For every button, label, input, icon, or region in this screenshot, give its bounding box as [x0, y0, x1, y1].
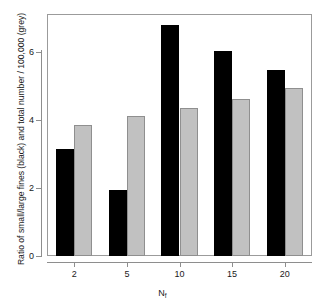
- y-tick-4: [36, 120, 42, 121]
- bar-grey-5: [127, 116, 145, 256]
- x-axis-title: Nf: [0, 288, 325, 299]
- x-tick-2: [74, 262, 75, 267]
- bar-grey-20: [285, 88, 303, 256]
- y-tick-6: [36, 52, 42, 53]
- bar-black-20: [267, 70, 285, 256]
- x-tick-label-10: 10: [165, 270, 195, 279]
- bar-grey-10: [180, 108, 198, 256]
- x-tick-15: [232, 262, 233, 267]
- plot-area: [48, 15, 311, 256]
- y-axis-title-wrapper: Ratio of small/large fines (black) and t…: [10, 0, 24, 279]
- x-tick-10: [180, 262, 181, 267]
- x-tick-20: [285, 262, 286, 267]
- bar-grey-2: [74, 125, 92, 256]
- x-axis-title-subscript: f: [165, 292, 167, 299]
- bar-black-15: [214, 51, 232, 256]
- y-axis-title: Ratio of small/large fines (black) and t…: [16, 13, 26, 265]
- bar-grey-15: [232, 99, 250, 256]
- bar-chart: 0246 25101520 Nf Ratio of small/large fi…: [0, 0, 325, 307]
- x-tick-label-15: 15: [217, 270, 247, 279]
- bar-black-5: [109, 190, 127, 256]
- x-tick-label-20: 20: [270, 270, 300, 279]
- y-tick-0: [36, 256, 42, 257]
- x-tick-label-2: 2: [59, 270, 89, 279]
- x-tick-5: [127, 262, 128, 267]
- bar-black-10: [161, 25, 179, 256]
- x-axis-title-base: N: [158, 288, 165, 298]
- y-axis-line: [41, 50, 42, 256]
- x-tick-label-5: 5: [112, 270, 142, 279]
- y-tick-2: [36, 188, 42, 189]
- bar-black-2: [56, 149, 74, 256]
